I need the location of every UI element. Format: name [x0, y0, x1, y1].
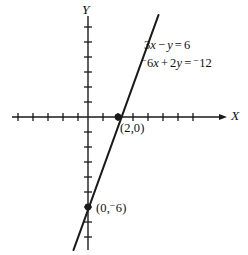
equation-2-neg-sign: −: [141, 55, 147, 66]
coordinate-graph-figure: 3x−y=6 −6x+2y=−12 (2,0) (0,−6) X Y: [0, 0, 248, 255]
equation-1-equals: =: [175, 38, 182, 52]
y-axis-label: Y: [82, 2, 90, 18]
point-label-x-intercept: (2,0): [120, 121, 144, 136]
y-intercept-close-paren: ): [122, 201, 126, 215]
equation-2-operator: +: [161, 56, 168, 70]
x-axis-label: X: [231, 108, 239, 124]
point-marker-x-intercept: [115, 114, 122, 121]
point-marker-y-intercept: [85, 204, 92, 211]
equation-1-constant: 6: [184, 38, 190, 52]
equation-2-equals: =: [184, 56, 191, 70]
equation-1-var-y: y: [167, 38, 173, 52]
point-label-y-intercept: (0,−6): [96, 200, 126, 216]
equation-label-1: 3x−y=6: [144, 38, 190, 53]
equation-2-var-y: y: [176, 56, 182, 70]
equation-1-var-x: x: [150, 38, 156, 52]
equation-1-operator: −: [158, 38, 165, 52]
equation-label-2: −6x+2y=−12: [141, 55, 212, 71]
x-axis-arrowhead: [219, 114, 227, 120]
equation-2-constant: 12: [199, 56, 212, 70]
y-intercept-neg-sign: −: [110, 200, 116, 211]
x-intercept-close-paren: ): [140, 121, 144, 135]
equation-2-var-x: x: [153, 56, 159, 70]
